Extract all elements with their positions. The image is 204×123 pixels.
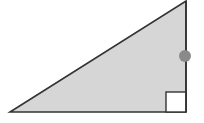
point-marker-dot: [179, 50, 191, 62]
triangle-shape: [10, 1, 186, 112]
right-triangle-diagram: [0, 0, 204, 123]
right-angle-marker: [166, 92, 186, 112]
